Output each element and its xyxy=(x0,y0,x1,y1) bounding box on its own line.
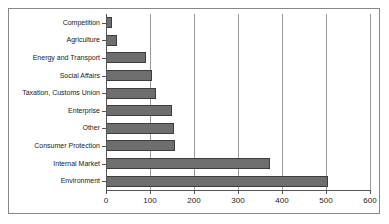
category-label: Agriculture xyxy=(0,36,100,44)
bar xyxy=(106,105,172,116)
category-label: Internal Market xyxy=(0,160,100,168)
bar-row xyxy=(106,137,370,155)
category-label: Competition xyxy=(0,19,100,27)
bar xyxy=(106,70,152,81)
bar-row xyxy=(106,32,370,50)
category-label: Social Affairs xyxy=(0,72,100,80)
bar-row xyxy=(106,155,370,173)
bar-row xyxy=(106,172,370,190)
bar-row xyxy=(106,67,370,85)
category-label: Environment xyxy=(0,177,100,185)
bar-row xyxy=(106,84,370,102)
value-tick-100 xyxy=(150,190,151,194)
bar-row xyxy=(106,120,370,138)
category-label: Energy and Transport xyxy=(0,54,100,62)
value-tick-400 xyxy=(282,190,283,194)
bar-row xyxy=(106,102,370,120)
bar-row xyxy=(106,14,370,32)
bar xyxy=(106,52,146,63)
value-axis-origin-line xyxy=(106,14,107,191)
value-tick-200 xyxy=(194,190,195,194)
bar xyxy=(106,176,328,187)
value-tick-label: 600 xyxy=(350,196,389,206)
value-tick-label: 0 xyxy=(86,196,126,206)
category-label: Consumer Protection xyxy=(0,142,100,150)
value-tick-label: 500 xyxy=(306,196,346,206)
category-label: Enterprise xyxy=(0,107,100,115)
category-label: Other xyxy=(0,124,100,132)
value-tick-600 xyxy=(370,190,371,194)
value-tick-300 xyxy=(238,190,239,194)
bar xyxy=(106,140,175,151)
category-label: Taxation, Customs Union xyxy=(0,89,100,97)
value-tick-label: 300 xyxy=(218,196,258,206)
bar xyxy=(106,35,117,46)
value-tick-label: 200 xyxy=(174,196,214,206)
bar-row xyxy=(106,49,370,67)
bar xyxy=(106,88,156,99)
gridline-600 xyxy=(370,14,371,190)
chart-figure: CompetitionAgricultureEnergy and Transpo… xyxy=(0,0,389,224)
bar xyxy=(106,123,174,134)
value-tick-label: 100 xyxy=(130,196,170,206)
value-tick-500 xyxy=(326,190,327,194)
value-tick-0 xyxy=(106,190,107,194)
bar xyxy=(106,158,270,169)
value-tick-label: 400 xyxy=(262,196,302,206)
